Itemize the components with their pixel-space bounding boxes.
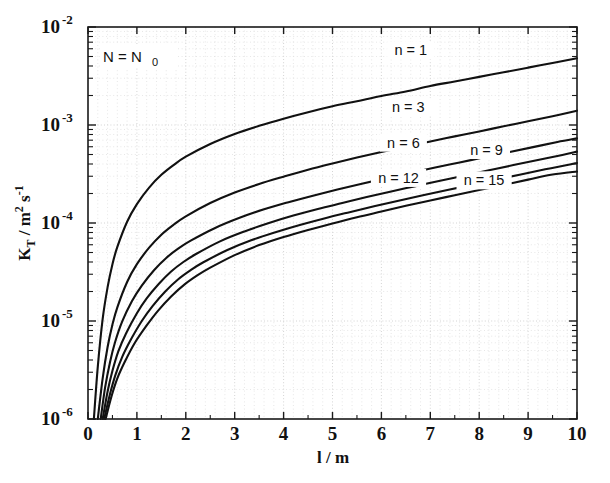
y-tick-exponent: -6 — [62, 404, 73, 419]
x-tick-label: 9 — [523, 423, 533, 444]
x-tick-label: 8 — [474, 423, 484, 444]
curve-label-text: n = 12 — [378, 170, 419, 186]
x-axis-title: l / m — [317, 448, 349, 467]
y-tick-mantissa: 10 — [41, 408, 60, 429]
y-title-sub-T: T — [24, 240, 38, 248]
curve-label-n-12: n = 12 — [371, 169, 426, 187]
curve-label-text: n = 9 — [470, 142, 503, 158]
curve-label-text: n = 15 — [464, 172, 505, 188]
annotation-text: N = N — [103, 48, 142, 65]
annotation-subscript: 0 — [152, 56, 158, 68]
y-title-K: K — [15, 247, 34, 261]
y-tick-mantissa: 10 — [41, 310, 60, 331]
curve-label-n-15: n = 15 — [456, 171, 511, 189]
x-tick-label: 1 — [132, 423, 142, 444]
curve-label-text: n = 3 — [392, 99, 425, 115]
semilog-plot: 012345678910 10-210-310-410-510-6 n = 1n… — [0, 0, 610, 483]
curve-label-text: n = 1 — [394, 42, 427, 58]
y-tick-exponent: -5 — [62, 306, 73, 321]
y-tick-exponent: -3 — [62, 110, 73, 125]
chart-figure: 012345678910 10-210-310-410-510-6 n = 1n… — [0, 0, 610, 483]
y-tick-exponent: -2 — [62, 12, 73, 27]
x-tick-label: 5 — [328, 423, 338, 444]
x-tick-label: 10 — [568, 423, 587, 444]
curve-label-n-3: n = 3 — [385, 98, 432, 116]
x-tick-label: 4 — [279, 423, 289, 444]
curve-label-n-6: n = 6 — [380, 134, 427, 152]
y-tick-mantissa: 10 — [41, 114, 60, 135]
curve-label-n-9: n = 9 — [463, 141, 510, 159]
x-tick-label: 0 — [83, 423, 93, 444]
y-tick-mantissa: 10 — [41, 212, 60, 233]
curve-label-text: n = 6 — [387, 135, 420, 151]
y-tick-exponent: -4 — [62, 208, 73, 223]
curve-label-n-1: n = 1 — [387, 41, 434, 59]
annotation-n-equals-n0: N = N 0 — [100, 44, 178, 68]
y-tick-mantissa: 10 — [41, 16, 60, 37]
x-tick-label: 2 — [181, 423, 191, 444]
x-tick-label: 7 — [426, 423, 436, 444]
x-tick-label: 3 — [230, 423, 240, 444]
x-tick-label: 6 — [377, 423, 387, 444]
y-title-sup-minus1: -1 — [12, 185, 26, 195]
y-title-mid: / m — [15, 212, 34, 239]
y-title-unit: s — [15, 195, 34, 206]
x-axis-title-text: l / m — [317, 448, 349, 467]
